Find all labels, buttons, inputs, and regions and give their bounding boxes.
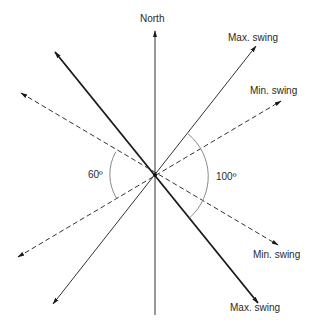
max-swing-se-label: Max. swing <box>230 303 280 313</box>
angle-60-label: 60º <box>88 170 103 180</box>
angle-arc-60 <box>110 152 117 199</box>
north-label: North <box>140 14 164 24</box>
center-point <box>153 173 157 177</box>
min-swing-dashed-line-a <box>18 101 281 257</box>
diagram-canvas <box>0 0 319 331</box>
swing-diagram: North Max. swing Min. swing Min. swing M… <box>0 0 319 331</box>
angle-100-label: 100º <box>216 172 236 182</box>
min-swing-ne-label: Min. swing <box>250 86 297 96</box>
min-swing-se-label: Min. swing <box>253 250 300 260</box>
max-swing-ne-label: Max. swing <box>228 33 278 43</box>
